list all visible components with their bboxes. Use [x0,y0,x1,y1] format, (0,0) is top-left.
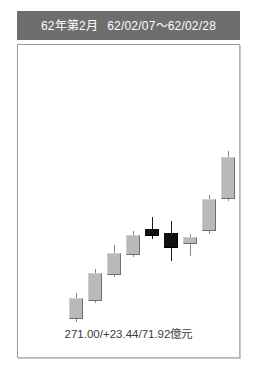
candle-6 [164,45,178,357]
candle-4-body [126,235,140,255]
candle-8-body [202,199,216,231]
candle-4 [126,45,140,357]
candle-7 [183,45,197,357]
chart-header-bar: 62年第2月 62/02/07～62/02/28 [17,11,240,40]
candle-6-body [164,233,178,248]
candle-7-body [183,237,197,244]
candle-2 [88,45,102,357]
candle-5 [145,45,159,357]
chart-period-label: 62年第2月 [41,20,98,32]
candle-8 [202,45,216,357]
candle-3-body [107,253,121,275]
candle-2-body [88,273,102,301]
candle-1 [69,45,83,357]
candlestick-plot-area [18,45,239,357]
chart-panel: 271.00/+23.44/71.92億元 [17,44,240,358]
candle-9-body [221,157,235,199]
chart-summary-text: 271.00/+23.44/71.92億元 [18,325,239,341]
candle-9 [221,45,235,357]
candle-1-body [69,298,83,319]
candle-3 [107,45,121,357]
candlestick-chart-widget: 62年第2月 62/02/07～62/02/28 271.00/+23.44/7… [0,0,254,374]
candle-5-body [145,229,159,236]
chart-date-range: 62/02/07～62/02/28 [107,20,216,32]
